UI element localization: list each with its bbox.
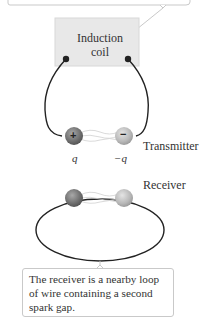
induction-coil-label-line1: Induction — [64, 31, 136, 45]
induction-coil-label: Induction coil — [64, 31, 136, 59]
transmitter-wire-right — [128, 59, 148, 136]
receiver-label: Receiver — [143, 178, 186, 193]
plus-sign-icon: + — [70, 129, 76, 141]
receiver-left-sphere — [65, 189, 83, 207]
transmitter-label: Transmitter — [143, 139, 199, 154]
minus-sign-icon: − — [120, 128, 126, 140]
positive-charge-label: q — [72, 152, 78, 164]
receiver-spark-icon — [80, 192, 118, 203]
receiver-right-sphere — [115, 189, 133, 207]
transmitter-wire-left — [45, 59, 66, 136]
induction-coil-label-line2: coil — [64, 45, 136, 59]
receiver-loop — [36, 199, 164, 261]
negative-charge-label: −q — [114, 152, 127, 164]
receiver-callout: The receiver is a nearby loop of wire co… — [22, 268, 174, 317]
transmitter-spark-icon — [80, 130, 118, 141]
